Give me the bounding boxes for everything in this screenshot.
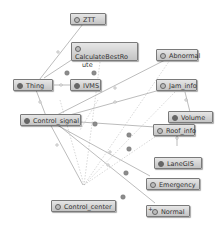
node-label: Volume — [181, 114, 205, 122]
class-icon — [74, 83, 80, 89]
node-abnormal[interactable]: Abnormal — [156, 49, 198, 61]
node-label: Control_signal — [33, 117, 79, 125]
node-label: LaneGIS — [167, 160, 194, 168]
node-label: Thing — [26, 82, 44, 90]
node-ztt[interactable]: ZTT — [70, 13, 106, 25]
node-jam-info[interactable]: Jam_info — [156, 79, 197, 91]
node-calculate-best-route[interactable]: CalculateBestRo ute — [71, 42, 138, 61]
node-emergency[interactable]: Emergency — [146, 178, 200, 190]
node-label: ZTT — [83, 16, 95, 24]
node-label: Abnormal — [169, 52, 200, 60]
class-icon — [55, 204, 61, 210]
node-label: Emergency — [159, 181, 196, 189]
node-label: Jam_info — [169, 82, 197, 90]
node-label: Normal — [161, 208, 185, 216]
node-label-line2: ute — [75, 61, 93, 69]
class-icon — [74, 17, 80, 23]
class-icon — [158, 161, 164, 167]
node-lanegis[interactable]: LaneGIS — [154, 157, 202, 169]
class-icon — [150, 182, 156, 188]
class-icon — [160, 53, 166, 59]
node-label-line1: CalculateBestRo — [75, 53, 128, 61]
node-volume[interactable]: Volume — [168, 111, 213, 123]
node-ivms[interactable]: IVMS — [70, 79, 101, 91]
node-label: Roof_info — [166, 127, 196, 135]
class-icon — [24, 118, 30, 124]
node-control-signal[interactable]: Control_signal — [20, 114, 81, 126]
class-icon — [75, 46, 81, 52]
class-icon — [160, 83, 166, 89]
class-icon — [157, 128, 163, 134]
node-thing[interactable]: Thing — [13, 79, 53, 91]
node-label: IVMS — [83, 82, 99, 90]
node-normal[interactable]: + Normal — [146, 205, 190, 217]
class-icon — [17, 83, 23, 89]
class-icon — [172, 115, 178, 121]
node-control-center[interactable]: Control_center — [51, 200, 116, 212]
node-label: Control_center — [64, 203, 112, 211]
expand-badge[interactable]: + — [148, 205, 153, 213]
node-roof-info[interactable]: Roof_info — [153, 124, 195, 136]
